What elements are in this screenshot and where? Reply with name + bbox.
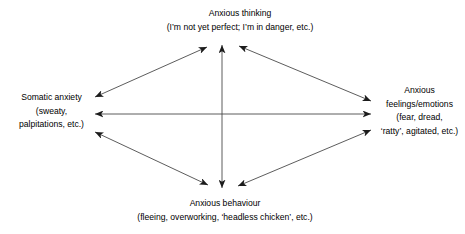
node-somatic-anxiety-line-3: palpitations, etc.): [0, 118, 103, 132]
anxiety-cycle-diagram: Anxious thinking (I’m not yet perfect; I…: [0, 0, 465, 234]
node-anxious-behaviour: Anxious behaviour (fleeing, overworking,…: [80, 197, 370, 224]
node-anxious-feelings-line-1: Anxious: [374, 84, 465, 98]
connector-thinking-feelings: [239, 46, 371, 101]
connector-somatic-thinking: [95, 47, 207, 97]
node-anxious-feelings-line-3: (fear, dread,: [374, 111, 465, 125]
node-somatic-anxiety-line-1: Somatic anxiety: [0, 91, 103, 105]
node-anxious-feelings-line-2: feelings/emotions: [374, 98, 465, 112]
node-anxious-behaviour-line-1: Anxious behaviour: [80, 197, 370, 211]
node-anxious-behaviour-line-2: (fleeing, overworking, ‘headless chicken…: [80, 211, 370, 225]
node-anxious-thinking-line-2: (I’m not yet perfect; I’m in danger, etc…: [120, 21, 360, 35]
connector-behaviour-feelings: [238, 130, 371, 186]
node-anxious-thinking: Anxious thinking (I’m not yet perfect; I…: [120, 7, 360, 34]
node-anxious-feelings-emotions: Anxious feelings/emotions (fear, dread, …: [374, 84, 465, 138]
connector-somatic-behaviour: [95, 132, 208, 185]
node-anxious-feelings-line-4: ‘ratty’, agitated, etc.): [374, 125, 465, 139]
node-somatic-anxiety-line-2: (sweaty,: [0, 105, 103, 119]
node-anxious-thinking-line-1: Anxious thinking: [120, 7, 360, 21]
node-somatic-anxiety: Somatic anxiety (sweaty, palpitations, e…: [0, 91, 103, 132]
